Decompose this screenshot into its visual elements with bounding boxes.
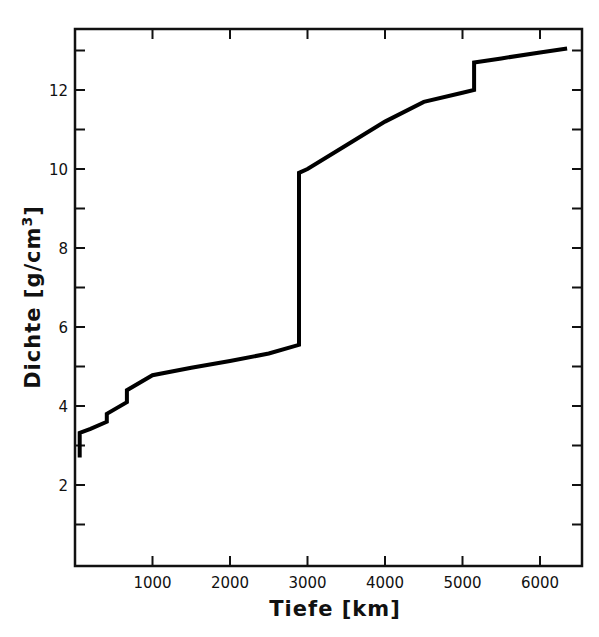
y-axis-ticks: 24681012	[49, 51, 582, 525]
x-tick-label: 6000	[521, 574, 559, 592]
x-tick-label: 5000	[443, 574, 481, 592]
y-tick-label: 6	[58, 319, 68, 337]
y-axis-title: Dichte [g/cm3]	[19, 205, 45, 389]
density-curve	[80, 49, 567, 458]
x-tick-label: 1000	[133, 574, 171, 592]
plot-frame	[75, 29, 582, 566]
y-tick-label: 4	[58, 398, 68, 416]
y-tick-label: 2	[58, 477, 68, 495]
y-tick-label: 8	[58, 240, 68, 258]
x-tick-label: 3000	[288, 574, 326, 592]
y-tick-label: 10	[49, 161, 68, 179]
y-tick-label: 12	[49, 82, 68, 100]
x-tick-label: 4000	[366, 574, 404, 592]
x-tick-label: 2000	[211, 574, 249, 592]
x-axis-title: Tiefe [km]	[269, 597, 401, 621]
density-depth-chart: 100020003000400050006000 24681012 Tiefe …	[0, 0, 599, 637]
x-axis-ticks: 100020003000400050006000	[133, 29, 559, 592]
